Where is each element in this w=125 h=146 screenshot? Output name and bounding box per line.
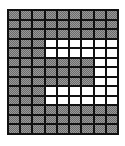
shaded-cell <box>21 87 31 95</box>
pixel-grid <box>7 9 119 135</box>
blank-cell <box>70 87 80 95</box>
shaded-cell <box>9 30 19 38</box>
shaded-cell <box>9 97 19 105</box>
shaded-cell <box>107 21 117 29</box>
shaded-cell <box>82 125 92 133</box>
shaded-cell <box>82 78 92 86</box>
shaded-cell <box>70 116 80 124</box>
shaded-cell <box>33 78 43 86</box>
shaded-cell <box>70 106 80 114</box>
blank-cell <box>107 40 117 48</box>
shaded-cell <box>70 59 80 67</box>
blank-cell <box>107 97 117 105</box>
shaded-cell <box>95 11 105 19</box>
blank-cell <box>70 49 80 57</box>
shaded-cell <box>33 49 43 57</box>
blank-cell <box>107 87 117 95</box>
shaded-cell <box>33 125 43 133</box>
shaded-cell <box>21 125 31 133</box>
shaded-cell <box>95 21 105 29</box>
shaded-cell <box>107 116 117 124</box>
blank-cell <box>107 59 117 67</box>
shaded-cell <box>95 116 105 124</box>
shaded-cell <box>9 87 19 95</box>
shaded-cell <box>33 87 43 95</box>
blank-cell <box>58 97 68 105</box>
shaded-cell <box>33 11 43 19</box>
shaded-cell <box>82 21 92 29</box>
shaded-cell <box>70 78 80 86</box>
shaded-cell <box>95 125 105 133</box>
shaded-cell <box>9 68 19 76</box>
shaded-cell <box>58 30 68 38</box>
shaded-cell <box>33 106 43 114</box>
shaded-cell <box>21 78 31 86</box>
shaded-cell <box>82 11 92 19</box>
shaded-cell <box>58 68 68 76</box>
blank-cell <box>95 68 105 76</box>
shaded-cell <box>21 11 31 19</box>
shaded-cell <box>58 21 68 29</box>
shaded-cell <box>46 116 56 124</box>
shaded-cell <box>46 68 56 76</box>
blank-cell <box>46 40 56 48</box>
blank-cell <box>70 40 80 48</box>
shaded-cell <box>9 106 19 114</box>
blank-cell <box>58 49 68 57</box>
blank-cell <box>82 87 92 95</box>
shaded-cell <box>9 116 19 124</box>
blank-cell <box>82 40 92 48</box>
shaded-cell <box>70 30 80 38</box>
shaded-cell <box>58 106 68 114</box>
shaded-cell <box>33 97 43 105</box>
shaded-cell <box>33 21 43 29</box>
shaded-cell <box>21 97 31 105</box>
shaded-cell <box>9 40 19 48</box>
shaded-cell <box>58 125 68 133</box>
shaded-cell <box>82 116 92 124</box>
shaded-cell <box>21 106 31 114</box>
shaded-cell <box>9 78 19 86</box>
shaded-cell <box>33 30 43 38</box>
shaded-cell <box>21 40 31 48</box>
shaded-cell <box>107 106 117 114</box>
shaded-cell <box>58 116 68 124</box>
shaded-cell <box>70 68 80 76</box>
blank-cell <box>95 97 105 105</box>
shaded-cell <box>82 106 92 114</box>
blank-cell <box>46 87 56 95</box>
blank-cell <box>95 87 105 95</box>
shaded-cell <box>107 11 117 19</box>
shaded-cell <box>21 68 31 76</box>
shaded-cell <box>82 68 92 76</box>
shaded-cell <box>46 21 56 29</box>
shaded-cell <box>21 116 31 124</box>
shaded-cell <box>82 59 92 67</box>
shaded-cell <box>9 125 19 133</box>
shaded-cell <box>46 30 56 38</box>
shaded-cell <box>46 59 56 67</box>
shaded-cell <box>70 21 80 29</box>
blank-cell <box>95 78 105 86</box>
blank-cell <box>107 78 117 86</box>
shaded-cell <box>70 11 80 19</box>
shaded-cell <box>21 21 31 29</box>
blank-cell <box>107 49 117 57</box>
blank-cell <box>95 40 105 48</box>
shaded-cell <box>58 78 68 86</box>
shaded-cell <box>107 125 117 133</box>
shaded-cell <box>9 11 19 19</box>
blank-cell <box>95 49 105 57</box>
shaded-cell <box>95 106 105 114</box>
shaded-cell <box>58 59 68 67</box>
shaded-cell <box>46 125 56 133</box>
shaded-cell <box>9 21 19 29</box>
blank-cell <box>107 68 117 76</box>
shaded-cell <box>9 49 19 57</box>
shaded-cell <box>9 59 19 67</box>
shaded-cell <box>58 11 68 19</box>
shaded-cell <box>33 68 43 76</box>
shaded-cell <box>46 106 56 114</box>
shaded-cell <box>46 11 56 19</box>
shaded-cell <box>107 30 117 38</box>
